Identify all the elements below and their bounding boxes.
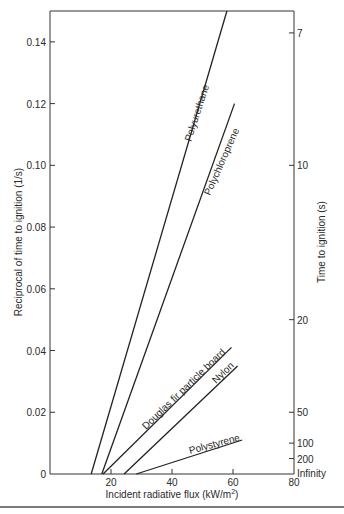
x-tick-label: 60 [227, 477, 239, 488]
label-polychloroprene: Polychloroprene [202, 126, 242, 197]
y-tick-label: 0.06 [27, 284, 47, 295]
y2-tick-label: 7 [297, 28, 303, 39]
y-axis-ticks: 00.020.040.060.080.100.120.14 [27, 37, 55, 480]
x-axis-title: Incident radiative flux (kW/m2) [106, 488, 239, 500]
bottom-divider [0, 506, 344, 508]
x-tick-label: 40 [166, 477, 178, 488]
y2-tick-label: 100 [297, 438, 314, 449]
y-axis-title: Reciprocal of time to ignition (1/s) [13, 168, 24, 316]
y2-tick-label: 10 [297, 160, 309, 171]
y-tick-label: 0.08 [27, 222, 47, 233]
y2-tick-label: 20 [297, 315, 309, 326]
x-axis-ticks: 20406080 [105, 469, 300, 488]
y2-tick-label: Infinity [297, 468, 326, 479]
series-line-polychloroprene [102, 104, 235, 474]
y-tick-label: 0.04 [27, 346, 47, 357]
y-tick-label: 0.02 [27, 407, 47, 418]
y-tick-label: 0 [40, 469, 46, 480]
x-tick-label: 80 [288, 477, 300, 488]
x-tick-label: 20 [105, 477, 117, 488]
y-tick-label: 0.10 [27, 160, 47, 171]
label-polystyrene: Polystyrene [188, 432, 242, 456]
y2-tick-label: 200 [297, 454, 314, 465]
y-tick-label: 0.12 [27, 99, 47, 110]
label-polyurethane: Polyurethane [182, 83, 211, 143]
ignition-chart: 00.020.040.060.080.100.120.14 7102050100… [0, 0, 344, 514]
y-tick-label: 0.14 [27, 37, 47, 48]
y2-tick-label: 50 [297, 407, 309, 418]
y2-axis-title: Time to ignition (s) [316, 201, 327, 283]
